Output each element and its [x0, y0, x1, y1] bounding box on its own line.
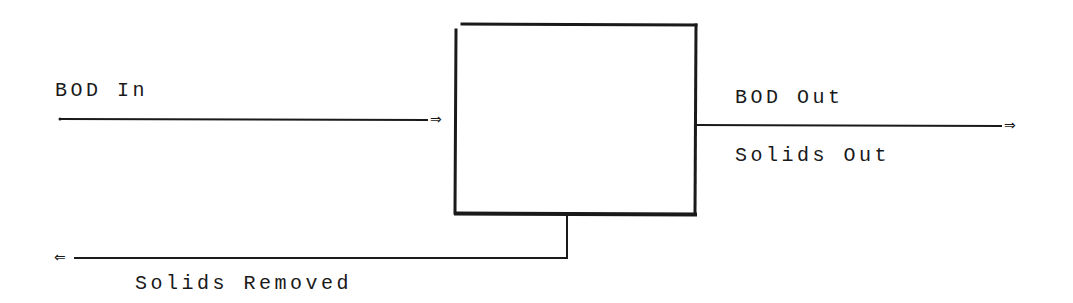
bod-out-label: BOD Out [735, 88, 844, 108]
solids-out-label: Solids Out [735, 146, 890, 166]
bod-out-arrow-icon: ⇒ [1004, 118, 1016, 132]
process-flow-diagram: ⇒ ⇒ ⇐ BOD In BOD Out Solids Out Solids R… [0, 0, 1073, 303]
diagram-canvas [0, 0, 1073, 303]
solids-removed-arrow-icon: ⇐ [54, 250, 66, 264]
process-box-bottom-edge [456, 214, 695, 215]
solids-removed-flow-line [74, 215, 567, 258]
solids-removed-label: Solids Removed [135, 274, 352, 294]
bod-out-flow-line [696, 125, 1002, 126]
bod-in-line-start [59, 118, 62, 121]
process-box-right-edge [695, 25, 696, 214]
process-box-top-edge [462, 24, 696, 25]
process-box [455, 24, 696, 215]
process-box-left-edge [455, 30, 456, 213]
bod-in-flow-line [59, 119, 428, 120]
bod-in-label: BOD In [55, 81, 148, 101]
bod-in-arrow-icon: ⇒ [430, 112, 442, 126]
